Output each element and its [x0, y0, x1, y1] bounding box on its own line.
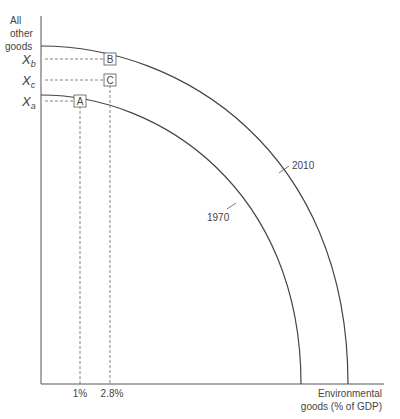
leader-2010 [279, 166, 289, 173]
curve-label-1970: 1970 [207, 212, 230, 223]
y-tick-xa: Xa [21, 94, 36, 111]
svg-text:B: B [107, 54, 114, 65]
ppf-curve-2010 [41, 46, 348, 384]
x-tick-2-8pct: 2.8% [101, 388, 124, 399]
x-axis-label-2: goods (% of GDP) [301, 401, 382, 412]
svg-text:A: A [77, 96, 84, 107]
y-tick-xc: Xc [21, 73, 36, 90]
point-a: A [74, 95, 86, 107]
point-c: C [104, 74, 116, 86]
svg-text:C: C [106, 75, 113, 86]
ppf-diagram: B C A All other goods Xb Xc Xa 1% 2.8% E… [0, 0, 400, 419]
y-tick-xb: Xb [21, 52, 36, 69]
point-b: B [104, 53, 116, 65]
curve-label-2010: 2010 [292, 160, 315, 171]
y-axis-label-2: other [10, 28, 33, 39]
x-axis-label-1: Environmental [318, 388, 382, 399]
y-axis-label-1: All [10, 15, 21, 26]
y-axis-label-3: goods [5, 41, 32, 52]
leader-1970 [227, 203, 236, 209]
x-tick-1pct: 1% [73, 388, 88, 399]
